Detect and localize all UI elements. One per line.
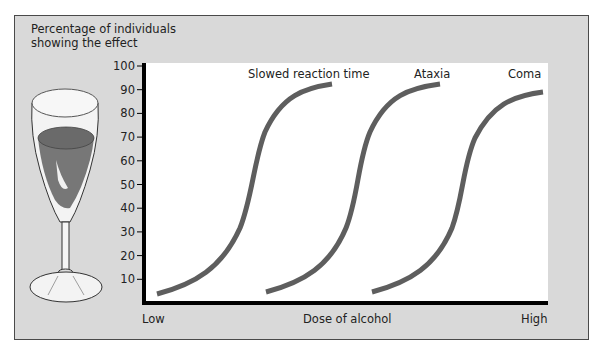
plot-area (145, 63, 548, 302)
tick-label-30: 30 (120, 225, 135, 239)
wine-glass-icon (30, 89, 102, 302)
tick-label-80: 80 (120, 106, 135, 120)
curve-label-coma: Coma (508, 67, 541, 81)
tick-label-70: 70 (120, 130, 135, 144)
tick-label-100: 100 (113, 59, 135, 73)
tick-label-40: 40 (120, 201, 135, 215)
curve-label-ataxia: Ataxia (414, 67, 450, 81)
tick-label-20: 20 (120, 249, 135, 263)
y-axis-tick-labels: 100 90 80 70 60 50 40 30 20 10 (113, 59, 135, 286)
chart-canvas: 100 90 80 70 60 50 40 30 20 10 Slowed re… (0, 0, 603, 353)
x-axis-title: Dose of alcohol (303, 312, 391, 326)
x-axis-label-high: High (521, 312, 547, 326)
tick-label-10: 10 (120, 272, 135, 286)
curve-label-slowed-reaction-time: Slowed reaction time (248, 67, 370, 81)
tick-label-50: 50 (120, 178, 135, 192)
tick-label-90: 90 (120, 83, 135, 97)
tick-label-60: 60 (120, 154, 135, 168)
x-axis-label-low: Low (142, 312, 165, 326)
